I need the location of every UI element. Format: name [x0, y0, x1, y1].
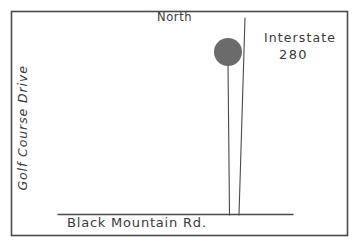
- map-frame: [12, 12, 348, 236]
- label-golf-course-drive: Golf Course Drive: [16, 71, 29, 191]
- label-interstate-name: Interstate: [264, 31, 336, 44]
- map-canvas: North Interstate 280 Golf Course Drive B…: [0, 0, 363, 243]
- label-interstate-number: 280: [279, 48, 308, 62]
- label-black-mountain-rd: Black Mountain Rd.: [67, 216, 207, 230]
- label-north: North: [157, 11, 192, 23]
- location-marker-dot: [214, 38, 242, 66]
